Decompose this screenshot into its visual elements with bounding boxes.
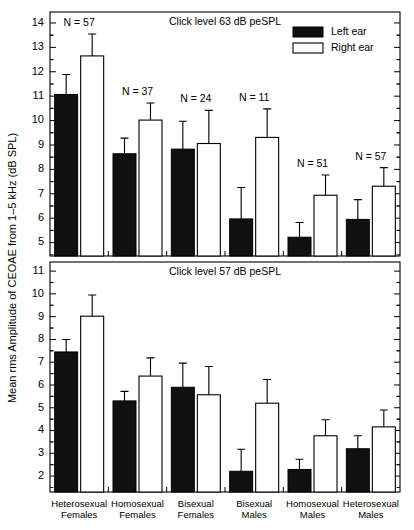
bar-right-ear: [256, 403, 279, 492]
legend-swatch-right-ear: [293, 43, 323, 53]
bar-left-ear: [288, 237, 311, 256]
category-label-line2: Males: [300, 509, 326, 520]
error-bar-right-ear: [322, 175, 330, 195]
n-label: N = 51: [297, 157, 328, 169]
n-label: N = 57: [355, 150, 386, 162]
bar-right-ear: [372, 427, 395, 492]
y-tick-label: 13: [32, 40, 44, 52]
y-tick-label: 10: [32, 287, 44, 299]
error-bar-right-ear: [322, 420, 330, 436]
bar-left-ear: [230, 219, 253, 256]
bar-right-ear: [314, 195, 337, 256]
error-bar-left-ear: [62, 339, 70, 352]
error-bar-left-ear: [179, 363, 187, 387]
error-bar-left-ear: [179, 121, 187, 149]
legend-label-right-ear: Right ear: [331, 41, 374, 53]
bar-left-ear: [346, 449, 369, 492]
bar-right-ear: [139, 120, 162, 256]
y-tick-label: 5: [38, 401, 44, 413]
category-label-line2: Females: [61, 509, 98, 520]
n-label: N = 37: [122, 85, 153, 97]
y-tick-label: 4: [38, 423, 44, 435]
y-tick-label: 12: [32, 65, 44, 77]
category-label-line1: Bisexual: [236, 498, 272, 509]
bar-right-ear: [81, 56, 104, 256]
bar-right-ear: [139, 376, 162, 492]
y-tick-label: 2: [38, 469, 44, 481]
bar-right-ear: [372, 186, 395, 256]
error-bar-left-ear: [296, 223, 304, 238]
bar-left-ear: [55, 352, 78, 492]
bar-left-ear: [230, 471, 253, 492]
bar-right-ear: [314, 436, 337, 492]
error-bar-left-ear: [354, 436, 362, 449]
figure-container: Mean rms Amplitude of CEOAE from 1–5 kHz…: [0, 0, 414, 530]
y-tick-label: 7: [38, 355, 44, 367]
category-label-line1: Bisexual: [178, 498, 214, 509]
legend-swatch-left-ear: [293, 27, 323, 37]
y-tick-label: 8: [38, 332, 44, 344]
category-label-line1: Heterosexual: [51, 498, 107, 509]
category-label-line1: Homosexual: [111, 498, 164, 509]
panel-title: Click level 57 dB peSPL: [169, 265, 281, 277]
panel-bottom-57db: 234567891011Click level 57 dB peSPL: [32, 262, 400, 492]
error-bar-right-ear: [380, 168, 388, 187]
legend-label-left-ear: Left ear: [331, 25, 367, 37]
y-tick-label: 7: [38, 187, 44, 199]
error-bar-left-ear: [296, 459, 304, 469]
category-label-line2: Females: [178, 509, 215, 520]
bar-left-ear: [113, 401, 136, 492]
error-bar-right-ear: [88, 295, 96, 316]
y-tick-label: 8: [38, 162, 44, 174]
error-bar-right-ear: [147, 358, 155, 376]
error-bar-right-ear: [205, 367, 213, 395]
y-tick-label: 6: [38, 378, 44, 390]
bar-right-ear: [197, 395, 220, 492]
y-tick-label: 6: [38, 211, 44, 223]
category-label-line1: Heterosexual: [343, 498, 399, 509]
category-label-line2: Males: [358, 509, 384, 520]
category-label-line2: Males: [241, 509, 267, 520]
error-bar-right-ear: [205, 110, 213, 143]
category-label-line1: Homosexual: [286, 498, 339, 509]
y-tick-label: 14: [32, 16, 44, 28]
category-axis-labels: HeterosexualFemalesHomosexualFemalesBise…: [51, 498, 399, 520]
n-label: N = 24: [180, 92, 211, 104]
bar-left-ear: [55, 94, 78, 256]
error-bar-left-ear: [121, 138, 129, 154]
y-axis-label-text: Mean rms Amplitude of CEOAE from 1–5 kHz…: [6, 133, 18, 403]
error-bar-right-ear: [88, 34, 96, 56]
chart-canvas: Mean rms Amplitude of CEOAE from 1–5 kHz…: [0, 0, 414, 530]
panel-title: Click level 63 dB peSPL: [169, 15, 281, 27]
bar-right-ear: [256, 137, 279, 256]
bar-left-ear: [346, 219, 369, 256]
n-label: N = 11: [239, 91, 270, 103]
y-tick-label: 5: [38, 235, 44, 247]
y-axis-label: Mean rms Amplitude of CEOAE from 1–5 kHz…: [6, 133, 18, 403]
bar-left-ear: [288, 469, 311, 492]
error-bar-right-ear: [263, 109, 271, 138]
legend: Left earRight ear: [293, 25, 374, 53]
error-bar-left-ear: [354, 200, 362, 220]
y-tick-label: 10: [32, 113, 44, 125]
error-bar-left-ear: [237, 187, 245, 218]
bar-left-ear: [171, 149, 194, 256]
category-label-line2: Females: [119, 509, 156, 520]
bar-right-ear: [197, 144, 220, 256]
bar-left-ear: [171, 387, 194, 492]
error-bar-left-ear: [237, 449, 245, 471]
y-tick-label: 3: [38, 446, 44, 458]
error-bar-right-ear: [380, 410, 388, 427]
error-bar-left-ear: [121, 391, 129, 401]
error-bar-right-ear: [263, 380, 271, 404]
error-bar-right-ear: [147, 103, 155, 120]
y-tick-label: 9: [38, 138, 44, 150]
y-tick-label: 11: [33, 89, 44, 101]
n-label: N = 57: [64, 16, 95, 28]
y-tick-label: 11: [33, 264, 44, 276]
bar-right-ear: [81, 316, 104, 492]
error-bar-left-ear: [62, 74, 70, 94]
y-tick-label: 9: [38, 310, 44, 322]
bar-left-ear: [113, 154, 136, 256]
